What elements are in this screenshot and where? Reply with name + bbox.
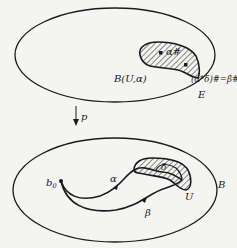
label-delta: δ [161,162,166,172]
label-path-beta: β [144,207,151,218]
arrow-beta-icon [141,197,147,203]
label-region-u: U [185,191,194,202]
point-alpha-delta-sharp [184,63,188,67]
label-alpha-sharp: α# [166,46,181,57]
path-beta [61,180,182,211]
label-alpha-delta-beta: (α*δ)#=β# [191,74,237,84]
label-space-b: B [217,179,225,190]
point-alpha-sharp [159,51,163,55]
covering-space-diagram: α# B(U,α) (α*δ)#=β# E p b0 α β δ U B [0,0,237,248]
label-basepoint: b0 [46,177,57,190]
basepoint-b0 [59,179,63,183]
label-region-b-u-alpha: B(U,α) [113,73,147,84]
path-alpha [61,168,182,199]
label-projection-p: p [81,111,88,122]
label-space-e: E [197,89,206,100]
arrowhead-icon [73,119,79,126]
label-path-alpha: α [110,173,117,184]
